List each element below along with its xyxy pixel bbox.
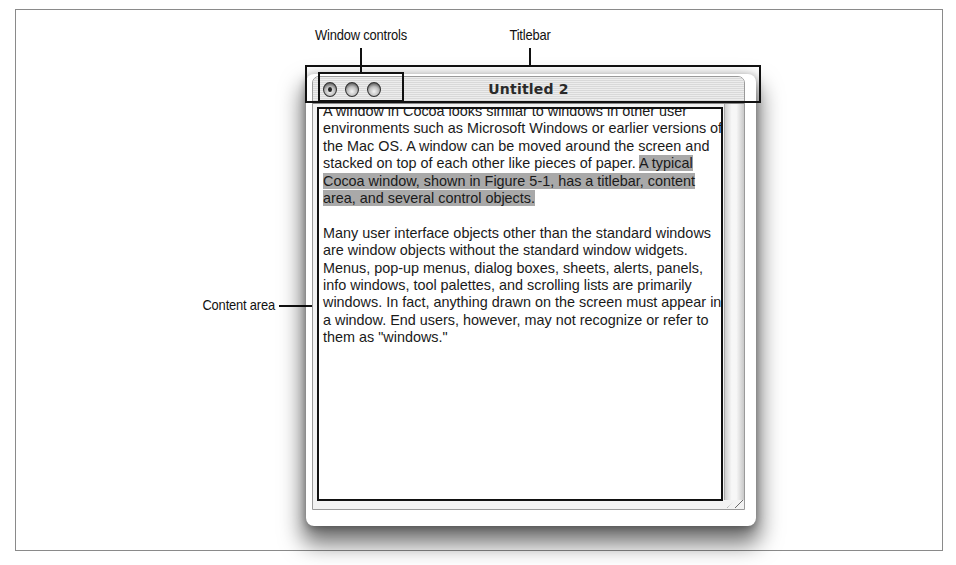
- paragraph-1: A window in Cocoa looks similar to windo…: [323, 107, 723, 207]
- callout-label-content-area: Content area: [168, 296, 276, 313]
- callout-label-titlebar: Titlebar: [496, 26, 565, 43]
- content-area[interactable]: A window in Cocoa looks similar to windo…: [317, 107, 723, 501]
- vertical-scroll-track[interactable]: [724, 104, 744, 500]
- callout-box-window-controls: [318, 72, 404, 102]
- leader-line-titlebar: [529, 48, 531, 66]
- text-view[interactable]: A window in Cocoa looks similar to windo…: [323, 107, 723, 364]
- callout-label-window-controls: Window controls: [309, 26, 414, 43]
- document-window: Untitled 2 A window in Cocoa looks simil…: [312, 76, 745, 510]
- paragraph-2: Many user interface objects other than t…: [323, 225, 723, 347]
